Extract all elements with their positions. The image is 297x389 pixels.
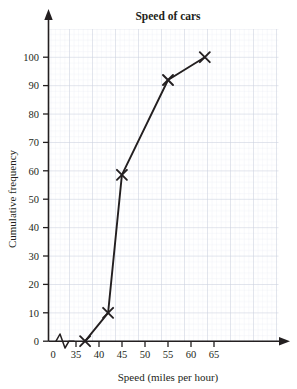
- y-tick-label-40: 40: [29, 222, 40, 233]
- y-tick-label-50: 50: [29, 194, 40, 205]
- chart-title: Speed of cars: [135, 10, 201, 23]
- chart-canvas: Speed of cars 0 35 40 45 50 55 60 65 0 1…: [0, 0, 297, 389]
- y-tick-label-70: 70: [29, 137, 40, 148]
- x-tick-label-60: 60: [186, 349, 197, 360]
- cumulative-frequency-chart: Speed of cars 0 35 40 45 50 55 60 65 0 1…: [0, 0, 297, 389]
- x-tick-label-50: 50: [140, 349, 151, 360]
- x-axis-title: Speed (miles per hour): [118, 371, 219, 384]
- y-tick-label-0: 0: [34, 336, 39, 347]
- y-tick-label-60: 60: [29, 166, 40, 177]
- x-tick-label-45: 45: [117, 349, 128, 360]
- x-tick-label-55: 55: [163, 349, 174, 360]
- y-axis-ticks: [43, 57, 49, 341]
- y-tick-label-80: 80: [29, 109, 40, 120]
- y-tick-label-100: 100: [23, 52, 39, 63]
- y-tick-label-90: 90: [29, 80, 40, 91]
- y-tick-label-30: 30: [29, 251, 40, 262]
- x-origin-label: 0: [50, 349, 55, 360]
- x-tick-label-65: 65: [209, 349, 220, 360]
- y-tick-label-10: 10: [29, 308, 40, 319]
- x-tick-label-35: 35: [71, 349, 82, 360]
- x-axis-ticks: [76, 341, 214, 347]
- y-tick-label-20: 20: [29, 279, 40, 290]
- y-axis-title: Cumulative frequency: [6, 149, 18, 248]
- x-tick-label-40: 40: [94, 349, 105, 360]
